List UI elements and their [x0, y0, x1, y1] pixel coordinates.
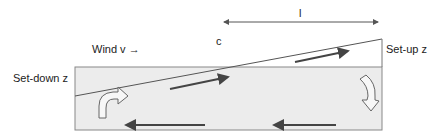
set-up-label: Set-up z [386, 44, 427, 55]
surface-flow-arrow-right [295, 51, 348, 62]
wind-label: Wind v → [92, 44, 140, 55]
c-label: c [216, 36, 222, 47]
length-label: l [299, 8, 301, 19]
diagram-canvas [0, 0, 441, 139]
set-down-label: Set-down z [13, 73, 68, 84]
